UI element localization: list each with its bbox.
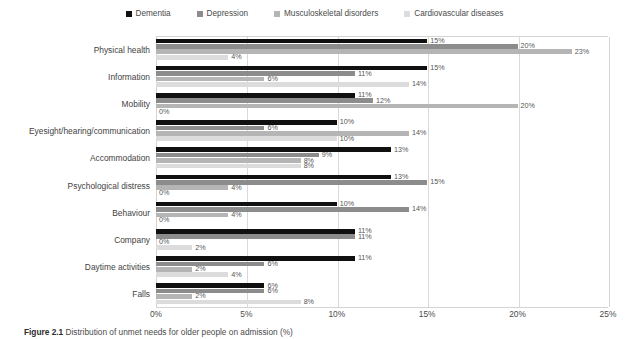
bar[interactable] bbox=[156, 283, 264, 288]
bar-value-label: 14% bbox=[409, 81, 426, 88]
bar[interactable] bbox=[156, 147, 391, 152]
bar[interactable] bbox=[156, 164, 301, 169]
x-axis-tick-label: 0% bbox=[150, 309, 162, 319]
x-axis: 0%5%10%15%20%25% bbox=[156, 309, 608, 323]
bar-slot: 8% bbox=[156, 164, 608, 169]
bar[interactable] bbox=[156, 93, 355, 98]
bar[interactable] bbox=[156, 158, 301, 163]
bar-slot: 14% bbox=[156, 131, 608, 136]
bar-value-label: 8% bbox=[301, 162, 314, 169]
bar[interactable] bbox=[156, 82, 409, 87]
category-label: Psychological distress bbox=[68, 181, 150, 191]
bar-slot: 8% bbox=[156, 158, 608, 163]
bar-value-label: 0% bbox=[156, 217, 169, 224]
legend-item-cardiovascular-diseases[interactable]: Cardiovascular diseases bbox=[404, 10, 503, 18]
bar[interactable] bbox=[156, 300, 301, 305]
bar-slot: 4% bbox=[156, 55, 608, 60]
bar[interactable] bbox=[156, 71, 355, 76]
bar-slot: 0% bbox=[156, 240, 608, 245]
bar-value-label: 8% bbox=[301, 298, 314, 305]
bar-slot: 6% bbox=[156, 77, 608, 82]
bars: 10%6%14%10% bbox=[156, 120, 608, 142]
legend-swatch-icon bbox=[274, 11, 280, 17]
category-label: Information bbox=[108, 72, 150, 82]
bars: 13%15%4%0% bbox=[156, 175, 608, 197]
legend-swatch-icon bbox=[404, 11, 410, 17]
bar[interactable] bbox=[156, 267, 192, 272]
bar-group: Accommodation13%9%8%8% bbox=[156, 145, 608, 172]
bar[interactable] bbox=[156, 234, 355, 239]
bar[interactable] bbox=[156, 98, 373, 103]
x-axis-tick-label: 10% bbox=[328, 309, 345, 319]
bar[interactable] bbox=[156, 272, 228, 277]
bar-rows: Physical health15%20%23%4%Information15%… bbox=[156, 36, 608, 308]
bar[interactable] bbox=[156, 136, 337, 141]
bars: 6%6%2%8% bbox=[156, 283, 608, 305]
bar-slot: 11% bbox=[156, 229, 608, 234]
bar-slot: 0% bbox=[156, 218, 608, 223]
bar[interactable] bbox=[156, 207, 409, 212]
legend-label: Cardiovascular diseases bbox=[414, 10, 503, 18]
figure-number: Figure 2.1 bbox=[24, 327, 63, 337]
figure-caption: Figure 2.1 Distribution of unmet needs f… bbox=[24, 327, 614, 337]
bar[interactable] bbox=[156, 262, 264, 267]
bar-slot: 14% bbox=[156, 207, 608, 212]
bar-group: Falls6%6%2%8% bbox=[156, 281, 608, 308]
bar-slot: 2% bbox=[156, 267, 608, 272]
legend-item-depression[interactable]: Depression bbox=[197, 10, 248, 18]
bar-slot: 14% bbox=[156, 82, 608, 87]
bar-slot: 9% bbox=[156, 153, 608, 158]
bars: 10%14%4%0% bbox=[156, 202, 608, 224]
bar[interactable] bbox=[156, 39, 427, 44]
bar[interactable] bbox=[156, 120, 337, 125]
bar[interactable] bbox=[156, 126, 264, 131]
bar[interactable] bbox=[156, 229, 355, 234]
bar[interactable] bbox=[156, 49, 572, 54]
bar[interactable] bbox=[156, 153, 319, 158]
bar-slot: 11% bbox=[156, 71, 608, 76]
bar[interactable] bbox=[156, 104, 518, 109]
bar-slot: 4% bbox=[156, 272, 608, 277]
bar[interactable] bbox=[156, 289, 264, 294]
bar-group: Mobility11%12%20%0% bbox=[156, 90, 608, 117]
bar-slot: 13% bbox=[156, 147, 608, 152]
bar-group: Company11%11%0%2% bbox=[156, 226, 608, 253]
bar[interactable] bbox=[156, 55, 228, 60]
chart-legend: DementiaDepressionMusculoskeletal disord… bbox=[0, 10, 629, 18]
bar[interactable] bbox=[156, 66, 427, 71]
gridline bbox=[609, 37, 610, 307]
bar[interactable] bbox=[156, 202, 337, 207]
legend-item-dementia[interactable]: Dementia bbox=[126, 10, 171, 18]
bars: 15%20%23%4% bbox=[156, 39, 608, 61]
bar-slot: 2% bbox=[156, 294, 608, 299]
bar[interactable] bbox=[156, 175, 391, 180]
bar[interactable] bbox=[156, 245, 192, 250]
bar-slot: 15% bbox=[156, 180, 608, 185]
bar-slot: 0% bbox=[156, 191, 608, 196]
bar[interactable] bbox=[156, 44, 518, 49]
bar-group: Physical health15%20%23%4% bbox=[156, 36, 608, 63]
bar-slot: 15% bbox=[156, 66, 608, 71]
legend-item-musculoskeletal-disorders[interactable]: Musculoskeletal disorders bbox=[274, 10, 378, 18]
bar[interactable] bbox=[156, 294, 192, 299]
x-axis-tick-label: 5% bbox=[240, 309, 252, 319]
bar-slot: 10% bbox=[156, 202, 608, 207]
bar[interactable] bbox=[156, 256, 355, 261]
category-label: Accommodation bbox=[90, 153, 150, 163]
category-label: Daytime activities bbox=[85, 262, 150, 272]
legend-label: Dementia bbox=[136, 10, 171, 18]
bar-slot: 6% bbox=[156, 289, 608, 294]
bars: 11%11%0%2% bbox=[156, 229, 608, 251]
figure-caption-text: Distribution of unmet needs for older pe… bbox=[66, 327, 293, 337]
bar-slot: 6% bbox=[156, 283, 608, 288]
bar[interactable] bbox=[156, 131, 409, 136]
category-label: Mobility bbox=[122, 99, 150, 109]
bar[interactable] bbox=[156, 77, 264, 82]
bar-slot: 6% bbox=[156, 126, 608, 131]
category-label: Physical health bbox=[94, 45, 150, 55]
bar-group: Eyesight/hearing/communication10%6%14%10… bbox=[156, 118, 608, 145]
legend-label: Depression bbox=[207, 10, 248, 18]
bar-slot: 20% bbox=[156, 44, 608, 49]
bar-group: Daytime activities11%6%2%4% bbox=[156, 254, 608, 281]
bar[interactable] bbox=[156, 180, 427, 185]
